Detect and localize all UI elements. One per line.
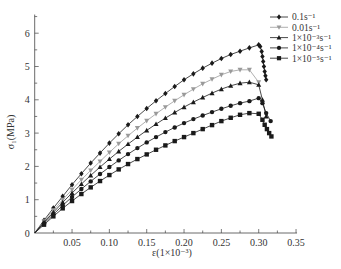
square-marker-icon	[191, 131, 195, 135]
diamond-marker-icon	[182, 77, 186, 83]
legend-label: 0.1s⁻¹	[292, 12, 316, 22]
y-tick-label: 1	[25, 194, 30, 205]
y-tick-label: 5	[25, 61, 30, 72]
diamond-marker-icon	[145, 106, 149, 112]
legend-item: 1×10⁻⁵s⁻¹	[270, 54, 332, 64]
circle-marker-icon	[191, 117, 195, 121]
diamond-marker-icon	[262, 64, 266, 70]
series-1	[35, 68, 262, 233]
square-marker-icon	[145, 152, 149, 156]
triangle-down-marker-icon	[172, 99, 177, 104]
series-line	[35, 98, 271, 233]
circle-marker-icon	[107, 165, 111, 169]
triangle-up-marker-icon	[247, 80, 252, 85]
square-marker-icon	[262, 123, 266, 127]
circle-marker-icon	[98, 172, 102, 176]
diamond-marker-icon	[191, 71, 195, 77]
diamond-marker-icon	[263, 73, 267, 79]
circle-marker-icon	[173, 125, 177, 129]
square-marker-icon	[51, 214, 55, 218]
triangle-down-marker-icon	[200, 82, 205, 87]
y-tick-label: 4	[25, 94, 30, 105]
triangle-up-marker-icon	[135, 134, 140, 139]
diamond-marker-icon	[277, 14, 281, 19]
circle-marker-icon	[154, 135, 158, 139]
triangle-up-marker-icon	[116, 149, 121, 154]
diamond-marker-icon	[154, 98, 158, 104]
x-tick-label: 0.10	[101, 237, 119, 248]
square-marker-icon	[201, 127, 205, 131]
circle-marker-icon	[126, 152, 130, 156]
circle-marker-icon	[229, 104, 233, 108]
circle-marker-icon	[219, 107, 223, 111]
square-marker-icon	[260, 118, 264, 122]
circle-marker-icon	[163, 130, 167, 134]
circle-marker-icon	[260, 101, 264, 105]
legend-item: 1×10⁻⁴s⁻¹	[270, 43, 332, 53]
series-line	[35, 113, 272, 233]
triangle-down-marker-icon	[154, 112, 159, 117]
triangle-up-marker-icon	[126, 141, 131, 146]
circle-marker-icon	[145, 140, 149, 144]
square-marker-icon	[182, 135, 186, 139]
circle-marker-icon	[264, 111, 268, 115]
triangle-up-marker-icon	[172, 110, 177, 115]
circle-marker-icon	[70, 195, 74, 199]
square-marker-icon	[70, 199, 74, 203]
circle-marker-icon	[268, 119, 272, 123]
triangle-down-marker-icon	[210, 77, 215, 82]
circle-marker-icon	[247, 99, 251, 103]
y-axis-title: σ₁(MPa)	[5, 115, 17, 149]
square-marker-icon	[89, 185, 93, 189]
circle-marker-icon	[79, 187, 83, 191]
triangle-up-marker-icon	[144, 128, 149, 133]
square-marker-icon	[229, 116, 233, 120]
series-line	[35, 70, 259, 233]
series-layer	[35, 42, 274, 233]
square-marker-icon	[154, 148, 158, 152]
square-marker-icon	[117, 167, 121, 171]
square-marker-icon	[269, 134, 273, 138]
diamond-marker-icon	[163, 91, 167, 97]
series-4	[35, 111, 274, 233]
circle-marker-icon	[277, 46, 281, 50]
triangle-up-marker-icon	[191, 100, 196, 105]
legend-item: 0.01s⁻¹	[270, 23, 320, 33]
x-tick-label: 0.30	[250, 237, 268, 248]
diamond-marker-icon	[264, 77, 268, 83]
legend-item: 1×10⁻³s⁻¹	[270, 33, 331, 43]
diamond-marker-icon	[260, 54, 264, 60]
triangle-up-marker-icon	[163, 116, 168, 121]
triangle-down-marker-icon	[191, 87, 196, 92]
circle-marker-icon	[89, 179, 93, 183]
triangle-up-marker-icon	[182, 105, 187, 110]
triangle-up-marker-icon	[154, 122, 159, 127]
diamond-marker-icon	[219, 56, 223, 62]
square-marker-icon	[61, 206, 65, 210]
legend-label: 0.01s⁻¹	[292, 23, 320, 33]
square-marker-icon	[126, 162, 130, 166]
square-marker-icon	[98, 179, 102, 183]
square-marker-icon	[210, 123, 214, 127]
circle-marker-icon	[117, 158, 121, 162]
y-tick-label: 6	[25, 28, 30, 39]
series-line	[35, 45, 267, 233]
x-tick-label: 0.25	[213, 237, 231, 248]
diamond-marker-icon	[247, 45, 251, 51]
plot-area: 0.050.100.150.200.250.300.350123456 0.1s…	[0, 0, 341, 269]
diamond-marker-icon	[259, 49, 263, 55]
square-marker-icon	[173, 139, 177, 143]
triangle-down-marker-icon	[219, 73, 224, 78]
legend-label: 1×10⁻⁵s⁻¹	[292, 54, 332, 64]
circle-marker-icon	[135, 146, 139, 150]
series-2	[35, 80, 269, 233]
diamond-marker-icon	[261, 59, 265, 65]
circle-marker-icon	[210, 110, 214, 114]
square-marker-icon	[238, 113, 242, 117]
diamond-marker-icon	[238, 48, 242, 54]
diamond-marker-icon	[210, 60, 214, 66]
diamond-marker-icon	[173, 84, 177, 90]
triangle-down-marker-icon	[163, 105, 168, 110]
diamond-marker-icon	[229, 52, 233, 58]
square-marker-icon	[257, 112, 261, 116]
